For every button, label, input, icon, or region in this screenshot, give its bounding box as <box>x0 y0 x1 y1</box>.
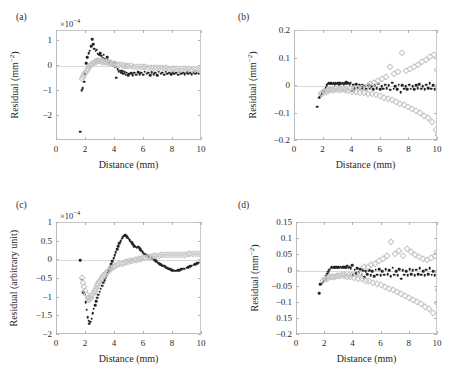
x-tick-mark <box>56 137 57 140</box>
data-point-dark <box>95 48 98 51</box>
y-tick-label: 0 <box>14 254 52 264</box>
data-point-dark <box>94 304 97 307</box>
x-axis-label: Distance (mm) <box>99 159 159 170</box>
data-point-dark <box>88 323 91 326</box>
x-tick-label: 4 <box>112 144 117 154</box>
y-tick-mark <box>434 334 437 335</box>
y-tick-mark <box>56 259 59 260</box>
y-tick-mark <box>296 270 299 271</box>
x-tick-mark <box>351 30 352 33</box>
data-point-dark <box>79 259 82 262</box>
x-tick-mark <box>380 137 381 140</box>
x-tick-mark <box>85 30 86 33</box>
data-point-dark <box>119 240 122 243</box>
x-tick-mark <box>324 222 325 225</box>
y-tick-label: −1 <box>14 292 52 302</box>
data-point-dark <box>427 273 430 276</box>
y-tick-mark <box>434 238 437 239</box>
x-tick-label: 0 <box>294 338 299 348</box>
data-point-dark <box>96 296 99 299</box>
x-tick-mark <box>85 331 86 334</box>
data-point-dark <box>405 270 408 273</box>
data-point-dark <box>399 91 402 94</box>
x-tick-label: 2 <box>322 338 327 348</box>
plot-area <box>56 30 201 140</box>
x-tick-mark <box>56 222 57 225</box>
data-point-dark <box>416 87 419 90</box>
data-point-dark <box>131 74 134 77</box>
y-tick-mark <box>198 90 201 91</box>
data-point-dark <box>435 271 437 274</box>
data-point-dark <box>115 251 118 254</box>
x-tick-mark <box>296 222 297 225</box>
x-tick-label: 10 <box>197 144 206 154</box>
data-point-dark <box>350 267 353 270</box>
data-point-dark <box>199 261 201 264</box>
x-tick-mark <box>56 331 57 334</box>
y-tick-mark <box>294 85 297 86</box>
x-tick-label: 6 <box>378 144 383 154</box>
data-point-dark <box>113 254 116 257</box>
y-tick-mark <box>434 302 437 303</box>
plot-area <box>294 30 437 140</box>
x-tick-label: 2 <box>83 144 88 154</box>
data-point-dark <box>391 267 394 270</box>
x-tick-mark <box>85 137 86 140</box>
data-point-dark <box>102 53 105 56</box>
data-point-dark <box>386 273 389 276</box>
y-tick-label: 1 <box>14 35 52 45</box>
data-point-dark <box>429 267 432 270</box>
x-tick-mark <box>408 30 409 33</box>
x-tick-mark <box>201 222 202 225</box>
data-point-dark <box>396 88 399 91</box>
x-tick-mark <box>351 137 352 140</box>
data-point-dark <box>90 317 93 320</box>
x-tick-mark <box>294 137 295 140</box>
y-tick-mark <box>294 113 297 114</box>
data-point-light <box>386 64 393 71</box>
data-point-dark <box>418 267 421 270</box>
y-tick-mark <box>198 334 201 335</box>
data-point-dark <box>400 277 403 280</box>
x-tick-mark <box>201 331 202 334</box>
data-point-dark <box>93 308 96 311</box>
x-tick-mark <box>201 30 202 33</box>
data-point-dark <box>383 274 386 277</box>
y-tick-mark <box>434 58 437 59</box>
data-point-dark <box>87 52 90 55</box>
x-tick-mark <box>143 331 144 334</box>
panel-d: (d)0.150.10.050−0.05−0.10.15−0.20246810D… <box>232 194 463 388</box>
y-tick-mark <box>56 334 59 335</box>
data-point-dark <box>366 273 369 276</box>
x-tick-mark <box>323 30 324 33</box>
data-point-dark <box>373 275 376 278</box>
y-tick-label: −2 <box>14 329 52 339</box>
data-point-light <box>434 66 437 73</box>
data-point-dark <box>418 83 421 86</box>
data-point-dark <box>89 320 92 323</box>
data-point-dark <box>374 268 377 271</box>
y-tick-mark <box>296 254 299 255</box>
x-tick-mark <box>437 30 438 33</box>
data-point-dark <box>398 84 401 87</box>
axis-multiplier: ×10−4 <box>60 209 80 221</box>
data-point-dark <box>425 268 428 271</box>
y-tick-mark <box>56 241 59 242</box>
x-tick-label: 6 <box>141 338 146 348</box>
data-point-dark <box>407 274 410 277</box>
data-point-dark <box>79 130 82 133</box>
x-tick-mark <box>172 222 173 225</box>
data-point-dark <box>403 87 406 90</box>
x-tick-label: 10 <box>433 338 442 348</box>
data-point-dark <box>420 274 423 277</box>
data-point-dark <box>118 242 121 245</box>
data-point-dark <box>116 248 119 251</box>
x-tick-mark <box>352 222 353 225</box>
data-point-dark <box>111 260 114 263</box>
y-tick-mark <box>56 315 59 316</box>
data-point-dark <box>401 84 404 87</box>
y-tick-mark <box>296 302 299 303</box>
y-axis-label: Residual (mm−2) <box>246 51 258 118</box>
y-tick-label: −0.5 <box>14 273 52 283</box>
data-point-light <box>432 126 437 133</box>
